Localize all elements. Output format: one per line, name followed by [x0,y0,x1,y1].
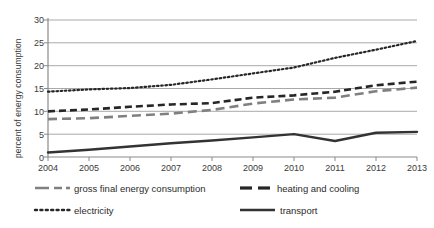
series-line-electricity [48,41,417,92]
legend-label-electricity: electricity [74,205,114,216]
legend-label-gross-final-energy-consumption: gross final energy consumption [74,183,206,194]
series-line-gross-final-energy-consumption [48,88,417,120]
legend-label-heating-and-cooling: heating and cooling [277,183,359,194]
legend-label-transport: transport [280,205,318,216]
legend [0,178,434,226]
chart-figure: percent of energy consumption 0 5 10 15 … [0,0,434,228]
x-axis-ticks [48,157,417,161]
series-line-transport [48,132,417,153]
